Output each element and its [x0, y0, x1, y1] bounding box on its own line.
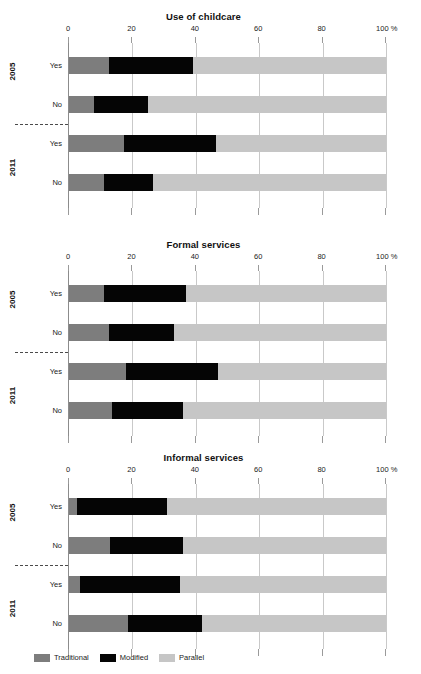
- chart-title: Informal services: [0, 441, 421, 465]
- x-tick-label: 0: [66, 465, 70, 474]
- bar-segment-traditional: [69, 324, 109, 341]
- legend-label: Traditional: [54, 653, 89, 662]
- group-label-year: 2005: [4, 67, 22, 76]
- bar-segment-traditional: [69, 57, 109, 74]
- legend-swatch-icon: [34, 654, 50, 662]
- stacked-bar: [69, 324, 386, 341]
- row-label: Yes: [22, 61, 62, 70]
- x-tick-label: 40: [191, 252, 199, 261]
- bar-segment-traditional: [69, 96, 94, 113]
- stacked-bar: [69, 57, 386, 74]
- group-label-text: 2005: [8, 291, 17, 309]
- row-label: No: [22, 619, 62, 628]
- row-label: No: [22, 328, 62, 337]
- gridline: [386, 484, 387, 649]
- x-tick-label: 20: [127, 252, 135, 261]
- legend-item-parallel: Parallel: [159, 653, 204, 662]
- legend-item-modified: Modified: [100, 653, 148, 662]
- row-label: Yes: [22, 289, 62, 298]
- bar-segment-parallel: [167, 498, 386, 515]
- stacked-bar: [69, 96, 386, 113]
- x-tick-label: 60: [254, 24, 262, 33]
- tick-mark: [258, 208, 259, 215]
- row-label: No: [22, 100, 62, 109]
- tick-mark: [385, 649, 386, 656]
- tick-mark: [385, 208, 386, 215]
- legend-item-traditional: Traditional: [34, 653, 89, 662]
- x-tick-label: 60: [254, 252, 262, 261]
- bar-segment-modified: [112, 402, 183, 419]
- x-tick-label: 20: [127, 24, 135, 33]
- group-label-text: 2005: [8, 504, 17, 522]
- group-label-year: 2011: [4, 391, 21, 400]
- x-tick-label: 0: [66, 252, 70, 261]
- bar-segment-parallel: [148, 96, 386, 113]
- x-tick-label: 40: [191, 465, 199, 474]
- tick-mark: [131, 208, 132, 215]
- plot-area: 020406080100 %YesNoYesNo20052011: [0, 24, 421, 215]
- bar-segment-traditional: [69, 576, 80, 593]
- bar-segment-traditional: [69, 363, 126, 380]
- bar-segment-traditional: [69, 174, 104, 191]
- group-label-text: 2011: [8, 387, 17, 404]
- row-label: No: [22, 406, 62, 415]
- stacked-bar: [69, 174, 386, 191]
- bar-segment-parallel: [153, 174, 386, 191]
- bar-segment-traditional: [69, 402, 112, 419]
- legend-swatch-icon: [159, 654, 175, 662]
- stacked-bar: [69, 615, 386, 632]
- bar-segment-modified: [80, 576, 180, 593]
- chart-panel-informal-services: Informal services 020406080100 %YesNoYes…: [0, 441, 421, 654]
- chart-panel-use-of-childcare: Use of childcare 020406080100 %YesNoYesN…: [0, 0, 421, 228]
- row-label: Yes: [22, 367, 62, 376]
- plot-box: [68, 271, 387, 436]
- chart-panel-formal-services: Formal services 020406080100 %YesNoYesNo…: [0, 228, 421, 441]
- row-label: Yes: [22, 139, 62, 148]
- tick-mark: [68, 208, 69, 215]
- chart-title: Formal services: [0, 228, 421, 252]
- tick-mark: [322, 649, 323, 656]
- chart-title: Use of childcare: [0, 0, 421, 24]
- x-axis-labels: 020406080100 %: [0, 465, 421, 478]
- group-label-text: 2005: [8, 63, 17, 81]
- plot-box: [68, 484, 387, 649]
- x-tick-label: 20: [127, 465, 135, 474]
- bar-segment-parallel: [193, 57, 386, 74]
- x-tick-label: 0: [66, 24, 70, 33]
- group-label-year: 2011: [4, 163, 21, 172]
- plot-box: [68, 43, 387, 208]
- stacked-bar: [69, 363, 386, 380]
- x-tick-label: 80: [317, 252, 325, 261]
- gridline: [386, 271, 387, 436]
- tick-mark: [195, 208, 196, 215]
- group-label-year: 2005: [4, 508, 22, 517]
- x-tick-label: 100 %: [376, 252, 397, 261]
- bar-segment-modified: [94, 96, 148, 113]
- gridline: [386, 43, 387, 208]
- tick-mark: [322, 208, 323, 215]
- x-tick-label: 80: [317, 24, 325, 33]
- bar-segment-traditional: [69, 498, 77, 515]
- plot-area: 020406080100 %YesNoYesNo20052011: [0, 252, 421, 443]
- x-axis-labels: 020406080100 %: [0, 24, 421, 37]
- row-label: No: [22, 178, 62, 187]
- stacked-bar: [69, 402, 386, 419]
- group-label-year: 2011: [4, 604, 21, 613]
- row-label: No: [22, 541, 62, 550]
- group-label-text: 2011: [8, 159, 17, 176]
- bar-segment-traditional: [69, 537, 110, 554]
- legend-swatch-icon: [100, 654, 116, 662]
- bar-segment-modified: [109, 324, 174, 341]
- x-axis-labels: 020406080100 %: [0, 252, 421, 265]
- bar-segment-parallel: [202, 615, 386, 632]
- x-tick-label: 100 %: [376, 24, 397, 33]
- bar-segment-traditional: [69, 615, 128, 632]
- chart-page: Use of childcare 020406080100 %YesNoYesN…: [0, 0, 421, 674]
- stacked-bar: [69, 135, 386, 152]
- bar-segment-modified: [109, 57, 193, 74]
- stacked-bar: [69, 537, 386, 554]
- stacked-bar: [69, 285, 386, 302]
- tick-mark: [258, 649, 259, 656]
- plot-area: 020406080100 %YesNoYesNo20052011: [0, 465, 421, 656]
- bar-segment-traditional: [69, 135, 124, 152]
